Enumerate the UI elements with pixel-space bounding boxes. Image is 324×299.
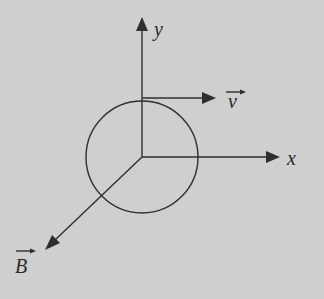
magnetic-field-label-text: B	[15, 255, 27, 277]
background	[0, 0, 324, 299]
x-axis-label: x	[286, 147, 296, 169]
vector-diagram: y x v B	[0, 0, 324, 299]
velocity-label-text: v	[228, 90, 237, 112]
y-axis-label: y	[152, 18, 163, 41]
